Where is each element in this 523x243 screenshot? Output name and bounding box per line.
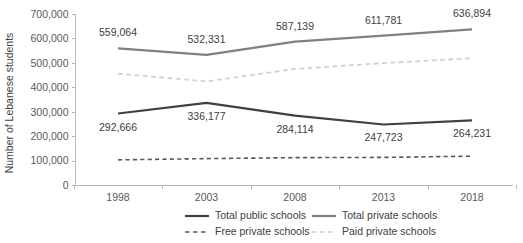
legend-label-3[interactable]: Paid private schools (342, 225, 436, 237)
y-axis-title-text: Number of Lebanese students (3, 33, 15, 174)
data-label: 292,666 (99, 121, 137, 133)
data-label: 336,177 (188, 110, 226, 122)
series-line-0 (118, 103, 472, 125)
x-tick-label: 2013 (372, 191, 396, 203)
y-tick-label: 700,000 (31, 8, 69, 20)
data-label: 559,064 (99, 26, 137, 38)
legend-label-0[interactable]: Total public schools (215, 209, 306, 221)
series-line-1 (118, 29, 472, 55)
line-chart: Number of Lebanese students 0100,000200,… (0, 0, 523, 243)
legend-label-1[interactable]: Total private schools (342, 209, 437, 221)
x-tick-label: 2018 (460, 191, 484, 203)
y-tick-label: 500,000 (31, 57, 69, 69)
y-tick-label: 200,000 (31, 130, 69, 142)
series-line-3 (118, 58, 472, 81)
series-line-2 (118, 156, 472, 160)
data-label: 284,114 (276, 123, 313, 135)
chart-container: Number of Lebanese students 0100,000200,… (0, 0, 523, 243)
y-tick-label: 300,000 (31, 106, 69, 118)
data-label: 264,231 (453, 127, 491, 139)
y-tick-label: 600,000 (31, 32, 69, 44)
x-tick-label: 1998 (106, 191, 130, 203)
y-tick-label: 100,000 (31, 154, 69, 166)
data-label: 247,723 (365, 131, 403, 143)
series-layer (118, 29, 472, 159)
y-axis-title: Number of Lebanese students (3, 33, 15, 174)
x-axis: 19982003200820132018 (74, 185, 517, 203)
chart-legend: Total public schoolsTotal private school… (185, 209, 437, 237)
data-label: 587,139 (276, 20, 314, 32)
x-tick-label: 2003 (195, 191, 219, 203)
data-label: 611,781 (365, 14, 402, 26)
data-label: 532,331 (188, 33, 226, 45)
y-tick-label: 0 (63, 179, 69, 191)
y-tick-label: 400,000 (31, 81, 69, 93)
legend-label-2[interactable]: Free private schools (215, 225, 310, 237)
x-tick-label: 2008 (283, 191, 307, 203)
data-label: 636,894 (453, 7, 491, 19)
y-axis: 0100,000200,000300,000400,000500,000600,… (31, 8, 76, 191)
